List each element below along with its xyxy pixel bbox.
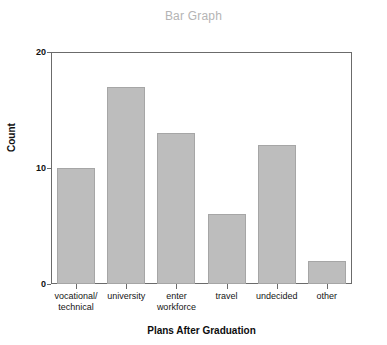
y-axis-tick-mark [47,284,51,285]
bar [107,87,145,284]
x-axis-tick-labels: vocational/ technicaluniversityenter wor… [51,291,352,313]
x-axis-tick-mark [227,284,228,289]
x-axis-tick-mark [277,284,278,289]
x-axis-tick-label: other [302,291,352,313]
x-axis-tick-label: enter workforce [151,291,201,313]
y-axis-title: Count [6,123,17,152]
x-axis-tick-mark [327,284,328,289]
bar [258,145,296,284]
bar [208,214,246,284]
x-axis-tick-mark [126,284,127,289]
x-axis-tick-label: university [101,291,151,313]
x-axis-tick-mark [76,284,77,289]
y-axis-tick-mark [47,168,51,169]
y-axis-tick-labels: 01020 [24,52,46,284]
y-axis-tick-label: 0 [41,279,46,289]
bar-chart: Bar Graph 01020 Count vocational/ techni… [0,0,387,345]
y-axis-tick-mark [47,52,51,53]
chart-title: Bar Graph [0,9,387,23]
x-axis-tick-label: vocational/ technical [51,291,101,313]
x-axis-tick-mark [176,284,177,289]
bar [157,133,195,284]
y-axis-tick-label: 20 [36,47,46,57]
x-axis-tick-label: undecided [252,291,302,313]
bar [308,261,346,284]
bar [57,168,95,284]
y-axis-tick-label: 10 [36,163,46,173]
x-axis-title: Plans After Graduation [51,325,352,336]
plot-area [51,52,352,284]
x-axis-tick-label: travel [202,291,252,313]
